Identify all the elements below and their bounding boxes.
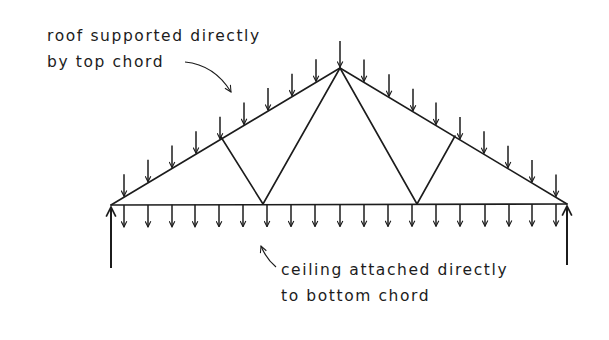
roof-annotation-line-1: roof supported directly	[47, 23, 261, 49]
top-chord-left	[111, 68, 340, 205]
ceiling-annotation: ceiling attached directly to bottom chor…	[281, 257, 508, 309]
web-left-short	[221, 137, 263, 204]
top-chord-right	[340, 68, 567, 204]
truss-members	[111, 68, 567, 205]
web-left-long	[263, 68, 340, 204]
web-right-short	[417, 136, 455, 204]
ceiling-pointer-curved-arrow-icon	[261, 246, 276, 267]
bottom-chord	[111, 204, 567, 205]
ceiling-load-arrows	[124, 204, 556, 227]
roof-annotation: roof supported directly by top chord	[47, 23, 261, 75]
ceiling-annotation-line-1: ceiling attached directly	[281, 257, 508, 283]
ceiling-annotation-line-2: to bottom chord	[281, 283, 508, 309]
roof-annotation-line-2: by top chord	[47, 49, 261, 75]
web-right-long	[340, 68, 417, 204]
